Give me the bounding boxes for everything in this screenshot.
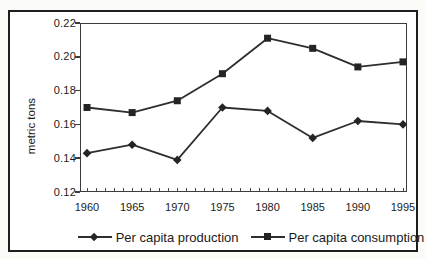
x-minor-tick xyxy=(231,188,232,191)
square-marker xyxy=(174,97,181,104)
x-minor-tick xyxy=(313,188,314,191)
x-minor-tick xyxy=(268,188,269,191)
y-tick-mark xyxy=(75,22,80,24)
x-minor-tick xyxy=(286,188,287,191)
y-tick-mark xyxy=(75,157,80,159)
diamond-series-marker-icon xyxy=(78,232,112,242)
x-minor-tick xyxy=(358,188,359,191)
x-minor-tick xyxy=(141,188,142,191)
y-tick-mark xyxy=(75,124,80,126)
legend-item-consumption: Per capita consumption xyxy=(251,230,425,245)
x-minor-tick xyxy=(385,188,386,191)
x-minor-tick xyxy=(132,188,133,191)
x-tick-label: 1985 xyxy=(295,201,331,214)
x-minor-tick xyxy=(322,188,323,191)
y-tick-mark xyxy=(75,90,80,92)
y-tick-label: 0.14 xyxy=(42,152,76,165)
legend-label-consumption: Per capita consumption xyxy=(289,230,425,245)
x-minor-tick xyxy=(304,188,305,191)
legend-item-production: Per capita production xyxy=(78,230,239,245)
square-marker xyxy=(84,104,91,111)
x-tick-label: 1995 xyxy=(385,201,421,214)
x-minor-tick xyxy=(177,188,178,191)
x-minor-tick xyxy=(367,188,368,191)
square-marker xyxy=(354,63,361,70)
x-minor-tick xyxy=(114,188,115,191)
x-minor-tick xyxy=(240,188,241,191)
x-minor-tick xyxy=(331,188,332,191)
square-marker xyxy=(264,35,271,42)
y-tick-label: 0.16 xyxy=(42,118,76,131)
square-marker xyxy=(219,70,226,77)
x-minor-tick xyxy=(123,188,124,191)
diamond-marker xyxy=(354,117,363,126)
square-marker xyxy=(129,109,136,116)
square-marker xyxy=(309,45,316,52)
x-minor-tick xyxy=(394,188,395,191)
diamond-marker xyxy=(399,120,407,129)
line-chart-canvas xyxy=(80,23,407,192)
x-minor-tick xyxy=(295,188,296,191)
x-minor-tick xyxy=(349,188,350,191)
y-tick-mark xyxy=(75,191,80,193)
y-tick-label: 0.22 xyxy=(42,17,76,30)
x-minor-tick xyxy=(150,188,151,191)
y-tick-label: 0.18 xyxy=(42,84,76,97)
x-minor-tick xyxy=(204,188,205,191)
x-minor-tick xyxy=(403,188,404,191)
square-series-marker-icon xyxy=(251,232,285,242)
diamond-marker xyxy=(263,107,272,116)
y-tick-label: 0.20 xyxy=(42,50,76,63)
x-minor-tick xyxy=(277,188,278,191)
x-minor-tick xyxy=(259,188,260,191)
x-minor-tick xyxy=(159,188,160,191)
x-minor-tick xyxy=(222,188,223,191)
x-tick-label: 1970 xyxy=(159,201,195,214)
diamond-marker xyxy=(83,149,92,158)
x-minor-tick xyxy=(96,188,97,191)
x-tick-label: 1965 xyxy=(114,201,150,214)
x-minor-tick xyxy=(105,188,106,191)
x-tick-label: 1990 xyxy=(340,201,376,214)
square-marker xyxy=(400,58,407,65)
y-axis-title: metric tons xyxy=(25,98,37,154)
x-tick-label: 1980 xyxy=(250,201,286,214)
diamond-marker xyxy=(308,134,317,143)
x-minor-tick xyxy=(186,188,187,191)
chart-legend: Per capita production Per capita consump… xyxy=(84,229,418,245)
x-minor-tick xyxy=(87,188,88,191)
x-minor-tick xyxy=(168,188,169,191)
x-minor-tick xyxy=(250,188,251,191)
x-minor-tick xyxy=(376,188,377,191)
x-minor-tick xyxy=(195,188,196,191)
x-minor-tick xyxy=(340,188,341,191)
x-tick-label: 1975 xyxy=(204,201,240,214)
y-tick-mark xyxy=(75,56,80,58)
y-tick-label: 0.12 xyxy=(42,186,76,199)
diamond-marker xyxy=(128,140,137,149)
legend-label-production: Per capita production xyxy=(116,230,239,245)
x-tick-label: 1960 xyxy=(69,201,105,214)
x-minor-tick xyxy=(213,188,214,191)
